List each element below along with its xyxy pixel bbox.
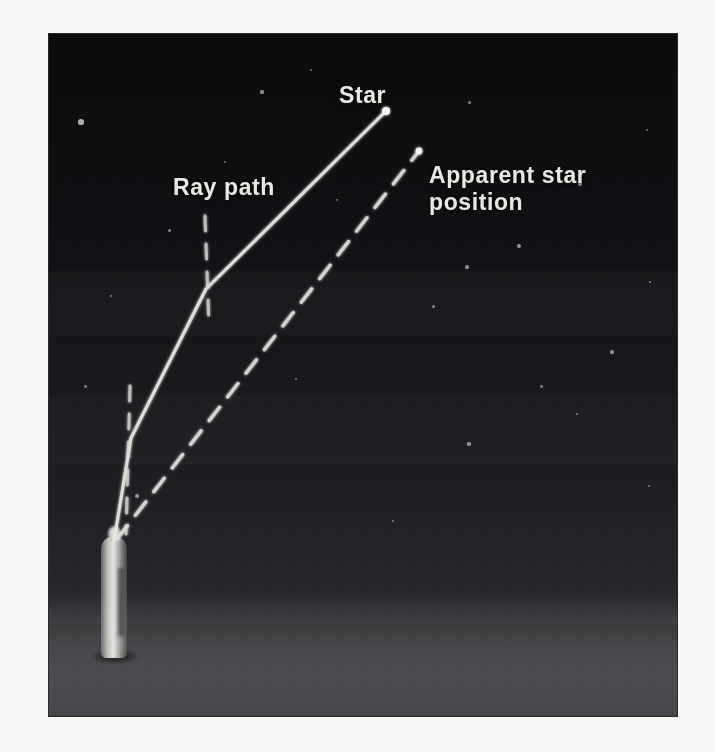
photograph-frame: Star Ray path Apparent star position [48, 33, 678, 717]
apparent-star-point [416, 148, 423, 155]
star-point [382, 107, 390, 115]
apparent-sightline [117, 151, 419, 539]
figure-page: Star Ray path Apparent star position [0, 0, 715, 752]
ray-path-line [114, 111, 386, 541]
vertical-reference-upper [205, 216, 209, 326]
ray-diagram [49, 34, 678, 717]
